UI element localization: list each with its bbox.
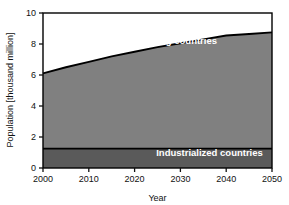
- y-tick-label-8: 8: [31, 39, 36, 49]
- population-projection-area-chart: 0246810 200020102020203020402050 Year Po…: [0, 0, 289, 205]
- x-tick-label-2010: 2010: [79, 174, 99, 184]
- y-axis-title: Population [thousand million]: [5, 32, 15, 147]
- x-tick-label-2050: 2050: [262, 174, 282, 184]
- x-tick-label-2020: 2020: [125, 174, 145, 184]
- x-tick-label-2030: 2030: [170, 174, 190, 184]
- y-tick-label-6: 6: [31, 70, 36, 80]
- y-tick-label-2: 2: [31, 132, 36, 142]
- x-tick-label-2040: 2040: [216, 174, 236, 184]
- series-label-developing: Developing countries: [120, 35, 217, 46]
- y-tick-label-4: 4: [31, 101, 36, 111]
- y-axis-tick-labels: 0246810: [26, 8, 36, 173]
- y-tick-label-0: 0: [31, 163, 36, 173]
- y-tick-label-10: 10: [26, 8, 36, 18]
- x-tick-label-2000: 2000: [33, 174, 53, 184]
- chart-figure: 0246810 200020102020203020402050 Year Po…: [0, 0, 289, 205]
- x-axis-title: Year: [148, 193, 166, 203]
- series-label-industrialized: Industrialized countries: [156, 147, 263, 158]
- x-axis-tick-labels: 200020102020203020402050: [33, 174, 282, 184]
